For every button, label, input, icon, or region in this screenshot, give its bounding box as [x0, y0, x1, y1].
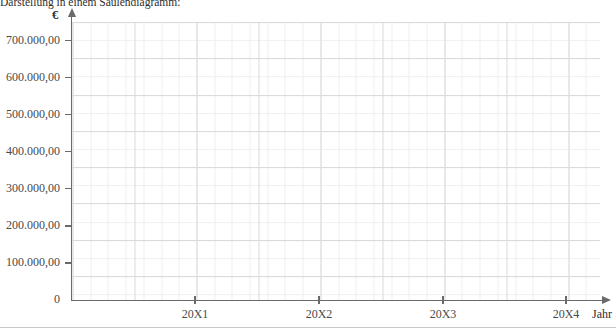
y-axis-tick-mark — [65, 40, 72, 41]
y-axis-tick-mark — [65, 77, 72, 78]
bar-chart-figure: € Jahr 0100.000,00200.000,00300.000,0040… — [0, 0, 616, 328]
y-axis-tick-mark — [65, 188, 72, 189]
grid-lines — [72, 22, 600, 300]
y-axis-tick-label: 300.000,00 — [6, 181, 60, 196]
y-axis-tick-mark — [65, 225, 72, 226]
x-axis-tick-mark — [442, 296, 443, 304]
y-axis-tick-label: 600.000,00 — [6, 70, 60, 85]
x-axis-tick-mark — [565, 296, 566, 304]
x-axis-tick-label: 20X4 — [553, 307, 580, 322]
y-axis-tick-label: 400.000,00 — [6, 144, 60, 159]
x-axis-tick-label: 20X1 — [182, 307, 209, 322]
y-axis-tick-mark — [65, 262, 72, 263]
y-axis-tick-label: 700.000,00 — [6, 33, 60, 48]
x-axis-tick-mark — [318, 296, 319, 304]
bottom-divider — [0, 327, 616, 328]
y-axis-line — [71, 16, 72, 301]
y-axis-tick-mark — [65, 114, 72, 115]
y-axis-tick-label: 500.000,00 — [6, 107, 60, 122]
x-axis-tick-mark — [194, 296, 195, 304]
x-axis-tick-label: 20X2 — [306, 307, 333, 322]
y-axis-tick-label: 0 — [54, 292, 60, 307]
y-axis-arrow-icon — [68, 8, 76, 17]
x-axis-arrow-icon — [602, 296, 611, 304]
x-axis-tick-label: 20X3 — [430, 307, 457, 322]
y-axis-tick-label: 200.000,00 — [6, 218, 60, 233]
y-axis-tick-label: 100.000,00 — [6, 255, 60, 270]
y-axis-tick-mark — [65, 151, 72, 152]
x-axis-line — [71, 300, 604, 301]
x-axis-unit-label: Jahr — [592, 307, 612, 322]
y-axis-unit-label: € — [52, 8, 58, 23]
plot-area — [72, 22, 600, 300]
